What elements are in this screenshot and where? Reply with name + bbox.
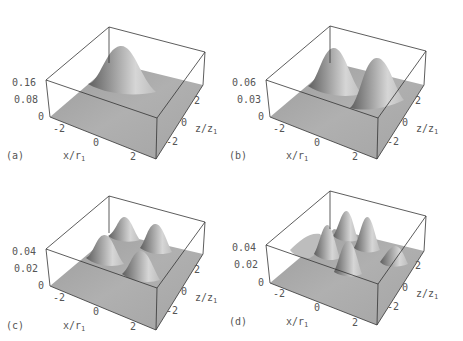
x-tick-zero: 0	[93, 306, 99, 317]
z-tick-top: 0.04	[12, 246, 36, 257]
y-axis-label: z/z1	[195, 123, 217, 136]
panel-a: 0.16 0.08 0 -2 0 2 2 0 -2 (a) x/r1 z/z1	[6, 27, 217, 163]
surface-peak-2	[140, 224, 172, 254]
z-tick-zero: 0	[38, 280, 44, 291]
x-axis-label: x/r1	[286, 316, 308, 329]
panel-b: 0.06 0.03 0 -2 0 2 2 0 -2 (b) x/r1 z/z1	[229, 26, 438, 163]
z-tick-zero: 0	[258, 277, 264, 288]
y-tick-zero: 0	[402, 117, 408, 128]
x-tick-pos: 2	[352, 151, 358, 162]
y-tick-zero: 0	[181, 117, 187, 128]
z-tick-mid: 0.03	[237, 94, 261, 105]
x-tick-pos: 2	[352, 317, 358, 328]
panel-tag: (a)	[6, 150, 24, 161]
x-tick-neg: -2	[53, 123, 65, 134]
z-tick-zero: 0	[258, 111, 264, 122]
z-tick-mid: 0.02	[14, 263, 38, 274]
x-axis-label: x/r1	[286, 150, 308, 163]
surface-peak-1	[333, 211, 358, 242]
x-axis-label: x/r1	[63, 320, 85, 333]
y-axis-label: z/z1	[416, 123, 438, 136]
panel-d: 0.04 0.02 0 -2 0 2 2 0 -2 (d) x/r1 z/z1	[229, 191, 438, 329]
y-tick-pos: 2	[194, 264, 200, 275]
y-tick-zero: 0	[402, 282, 408, 293]
z-tick-mid: 0.02	[234, 259, 258, 270]
y-tick-neg: -2	[166, 305, 178, 316]
panel-tag: (c)	[6, 320, 24, 331]
y-tick-neg: -2	[387, 136, 399, 147]
x-tick-pos: 2	[130, 321, 136, 332]
z-tick-top: 0.04	[232, 242, 256, 253]
y-tick-pos: 2	[415, 95, 421, 106]
floor	[50, 233, 203, 330]
z-tick-top: 0.16	[12, 77, 36, 88]
x-tick-neg: -2	[53, 292, 65, 303]
z-tick-mid: 0.08	[14, 94, 38, 105]
z-tick-top: 0.06	[232, 77, 256, 88]
figure: 0.16 0.08 0 -2 0 2 2 0 -2 (a) x/r1 z/z1 …	[0, 0, 463, 341]
y-tick-pos: 2	[415, 260, 421, 271]
x-tick-zero: 0	[93, 137, 99, 148]
x-tick-zero: 0	[314, 302, 320, 313]
y-tick-neg: -2	[166, 136, 178, 147]
x-tick-neg: -2	[273, 123, 285, 134]
y-axis-label: z/z1	[195, 292, 217, 305]
panel-tag: (d)	[229, 316, 247, 327]
surface-peak	[88, 46, 156, 94]
y-tick-zero: 0	[181, 286, 187, 297]
panel-tag: (b)	[229, 150, 247, 161]
surface-peak-1	[108, 217, 140, 242]
x-axis-label: x/r1	[63, 150, 85, 163]
z-tick-zero: 0	[38, 111, 44, 122]
x-tick-zero: 0	[314, 137, 320, 148]
y-axis-label: z/z1	[416, 288, 438, 301]
x-tick-neg: -2	[273, 288, 285, 299]
surface-peak-2	[354, 217, 380, 253]
y-tick-pos: 2	[194, 95, 200, 106]
panel-c: 0.04 0.02 0 -2 0 2 2 0 -2 (c) x/r1 z/z1	[6, 196, 217, 333]
x-tick-pos: 2	[130, 151, 136, 162]
y-tick-neg: -2	[387, 301, 399, 312]
